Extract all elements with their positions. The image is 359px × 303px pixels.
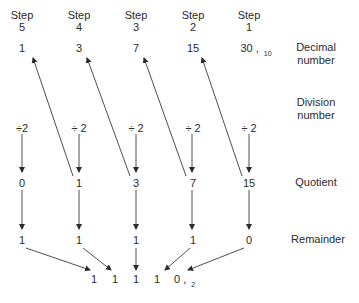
step-header: Step 1 (238, 9, 261, 33)
divisor: ÷ 2 (241, 122, 256, 134)
result-arrow (165, 248, 190, 270)
result-arrow (188, 248, 244, 270)
result-last: 0 , 2 (174, 273, 195, 287)
base-subscript: 2 (191, 281, 195, 288)
step-label: Step (182, 9, 205, 21)
step-header: Step 3 (125, 9, 148, 33)
label-line: number (284, 109, 348, 122)
decimal-value: 3 (76, 42, 82, 54)
comma: , (256, 42, 259, 54)
decimal-value: 1 (19, 42, 25, 54)
result-digit: 1 (154, 273, 160, 285)
quotient-value: 15 (243, 177, 255, 189)
quotient-value: 1 (76, 177, 82, 189)
quotient-value: 7 (190, 177, 196, 189)
step-label: Step (238, 9, 261, 21)
decimal-value-start: 30 , 10 (240, 42, 271, 56)
feedback-arrow (202, 58, 242, 176)
feedback-arrow (87, 58, 130, 176)
step-header: Step 4 (68, 9, 91, 33)
row-label-decimal: Decimal number (284, 41, 348, 67)
step-number: 3 (125, 21, 148, 33)
row-label-division: Division number (284, 96, 348, 122)
step-label: Step (11, 9, 34, 21)
row-label-quotient: Quotient (284, 176, 348, 189)
step-number: 4 (68, 21, 91, 33)
divisor: ÷ 2 (185, 122, 200, 134)
decimal-value: 15 (187, 42, 199, 54)
result-digit: 1 (133, 273, 139, 285)
quotient-value: 0 (19, 177, 25, 189)
divisor: ÷ 2 (71, 122, 86, 134)
decimal-value: 30 (240, 42, 252, 54)
step-header: Step 5 (11, 9, 34, 33)
result-arrow (83, 248, 111, 270)
step-label: Step (125, 9, 148, 21)
result-arrow (26, 248, 90, 270)
remainder-value: 1 (76, 234, 82, 246)
feedback-arrow (144, 58, 186, 176)
result-digit: 1 (91, 273, 97, 285)
base-subscript: 10 (264, 50, 272, 57)
step-number: 5 (11, 21, 34, 33)
step-number: 2 (182, 21, 205, 33)
comma: , (183, 273, 186, 285)
feedback-arrow (33, 58, 73, 176)
result-digit: 0 (174, 273, 180, 285)
label-line: Decimal (284, 41, 348, 54)
step-label: Step (68, 9, 91, 21)
remainder-value: 1 (190, 234, 196, 246)
remainder-value: 1 (19, 234, 25, 246)
label-line: number (284, 54, 348, 67)
step-header: Step 2 (182, 9, 205, 33)
divisor: ÷2 (16, 122, 28, 134)
quotient-value: 3 (133, 177, 139, 189)
decimal-value: 7 (133, 42, 139, 54)
label-line: Division (284, 96, 348, 109)
row-label-remainder: Remainder (284, 233, 352, 246)
remainder-value: 0 (246, 234, 252, 246)
divisor: ÷ 2 (128, 122, 143, 134)
result-digit: 1 (112, 273, 118, 285)
remainder-value: 1 (133, 234, 139, 246)
step-number: 1 (238, 21, 261, 33)
